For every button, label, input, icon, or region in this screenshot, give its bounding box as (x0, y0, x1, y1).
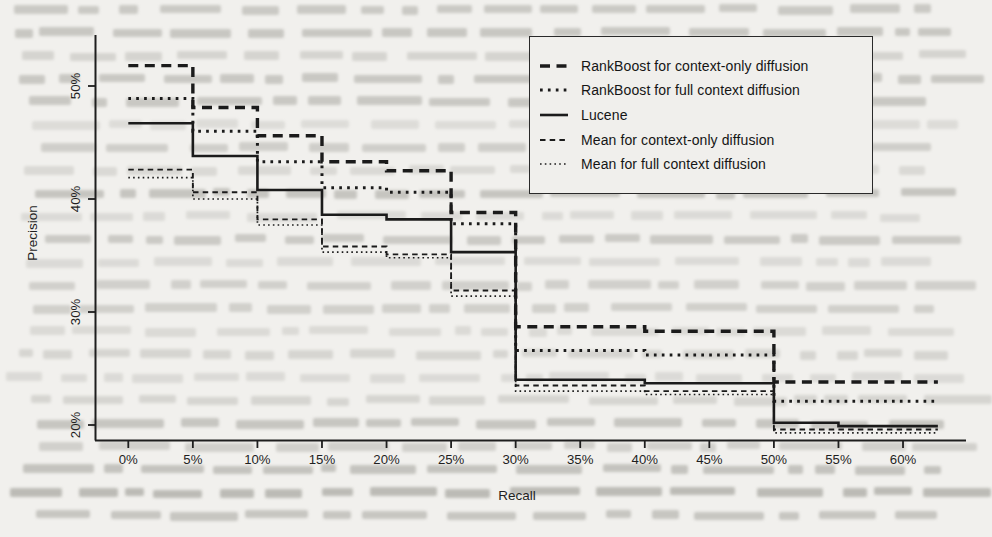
series-line-5 (128, 178, 938, 433)
legend-label: Mean for full context diffusion (581, 156, 766, 172)
thin-dashed-line-sample-icon (539, 134, 569, 146)
chart-legend: RankBoost for context-only diffusion Ran… (529, 36, 873, 194)
y-tick-label: 50% (68, 73, 83, 100)
solid-line-sample-icon (539, 109, 569, 121)
x-tick-label: 50% (761, 452, 788, 467)
legend-item-rankboost-full-context: RankBoost for full context diffusion (530, 78, 872, 103)
legend-label: Mean for context-only diffusion (581, 132, 775, 148)
x-tick-label: 60% (890, 452, 917, 467)
x-axis-label: Recall (467, 488, 567, 503)
x-tick-label: 10% (244, 452, 271, 467)
x-tick-label: 20% (373, 452, 400, 467)
legend-item-rankboost-context-only: RankBoost for context-only diffusion (530, 54, 872, 79)
x-tick-label: 5% (183, 452, 202, 467)
legend-label: Lucene (581, 107, 628, 123)
x-tick-label: 30% (502, 452, 529, 467)
legend-item-mean-full-context: Mean for full context diffusion (530, 152, 872, 177)
y-tick-label: 20% (68, 412, 83, 439)
x-tick-label: 35% (567, 452, 594, 467)
y-tick-label: 40% (68, 186, 83, 213)
x-tick-label: 45% (696, 452, 723, 467)
legend-label: RankBoost for context-only diffusion (581, 58, 808, 74)
x-tick-label: 15% (309, 452, 336, 467)
legend-label: RankBoost for full context diffusion (581, 82, 800, 98)
bold-dashed-line-sample-icon (539, 60, 569, 72)
x-tick-label: 0% (119, 452, 138, 467)
y-axis-label: Precision (24, 191, 42, 275)
y-tick-label: 30% (68, 299, 83, 326)
x-tick-label: 25% (438, 452, 465, 467)
bold-dotted-line-sample-icon (539, 84, 569, 96)
legend-item-mean-context-only: Mean for context-only diffusion (530, 127, 872, 152)
fine-dotted-line-sample-icon (539, 158, 569, 170)
series-line-4 (128, 170, 938, 430)
legend-item-lucene: Lucene (530, 103, 872, 128)
x-tick-label: 40% (632, 452, 659, 467)
x-tick-label: 55% (825, 452, 852, 467)
